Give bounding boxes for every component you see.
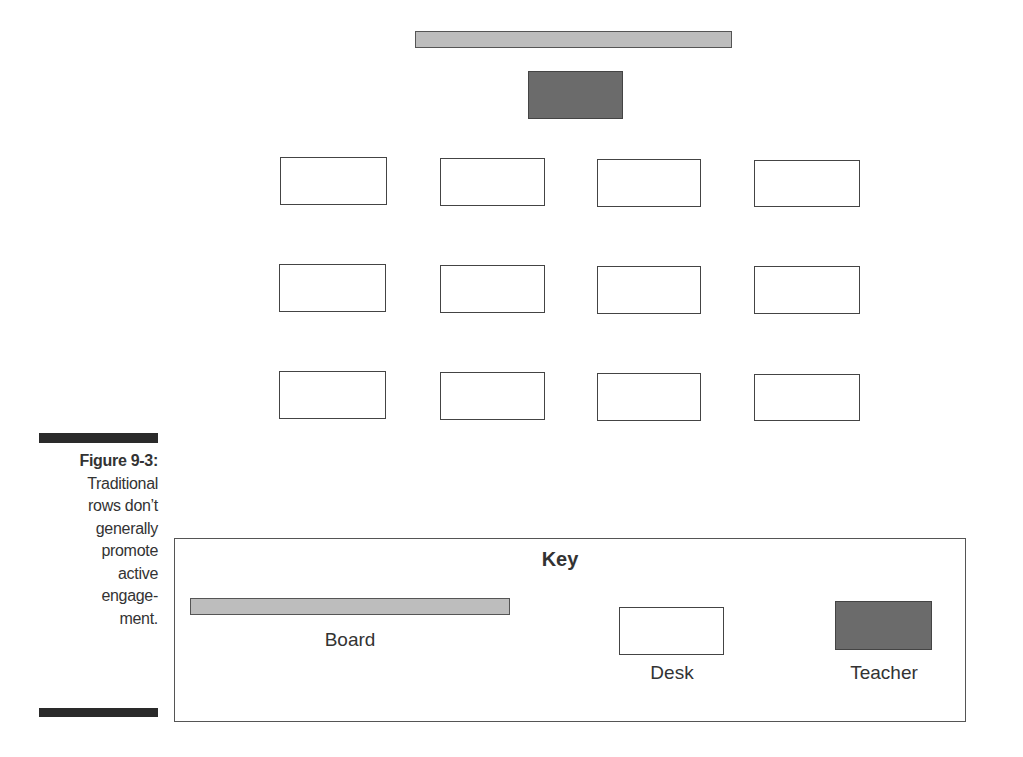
key-teacher-swatch bbox=[835, 601, 932, 650]
caption-line: engage- bbox=[30, 585, 158, 608]
key-teacher-label: Teacher bbox=[832, 662, 936, 686]
caption-line: promote bbox=[30, 540, 158, 563]
desk-r1-c3 bbox=[597, 159, 701, 207]
desk-r2-c4 bbox=[754, 266, 860, 314]
desk-r3-c4 bbox=[754, 374, 860, 421]
desk-r2-c2 bbox=[440, 265, 545, 313]
desk-r1-c4 bbox=[754, 160, 860, 207]
caption-top-bar bbox=[39, 433, 158, 443]
caption-line: Traditional bbox=[30, 473, 158, 496]
key-title: Key bbox=[520, 548, 600, 574]
board bbox=[415, 31, 732, 48]
caption-line: ment. bbox=[30, 608, 158, 631]
key-board-label: Board bbox=[300, 629, 400, 653]
teacher-desk bbox=[528, 71, 623, 119]
figure-caption: Figure 9-3: Traditional rows don’t gener… bbox=[30, 450, 158, 630]
key-desk-swatch bbox=[619, 607, 724, 655]
desk-r3-c3 bbox=[597, 373, 701, 421]
caption-line: generally bbox=[30, 518, 158, 541]
desk-r3-c1 bbox=[279, 371, 386, 419]
key-desk-label: Desk bbox=[622, 662, 722, 686]
key-board-swatch bbox=[190, 598, 510, 615]
caption-line: rows don’t bbox=[30, 495, 158, 518]
desk-r1-c2 bbox=[440, 158, 545, 206]
figure-label: Figure 9-3: bbox=[30, 450, 158, 473]
caption-line: active bbox=[30, 563, 158, 586]
desk-r2-c3 bbox=[597, 266, 701, 314]
desk-r2-c1 bbox=[279, 264, 386, 312]
desk-r3-c2 bbox=[440, 372, 545, 420]
desk-r1-c1 bbox=[280, 157, 387, 205]
caption-bottom-bar bbox=[39, 708, 158, 717]
